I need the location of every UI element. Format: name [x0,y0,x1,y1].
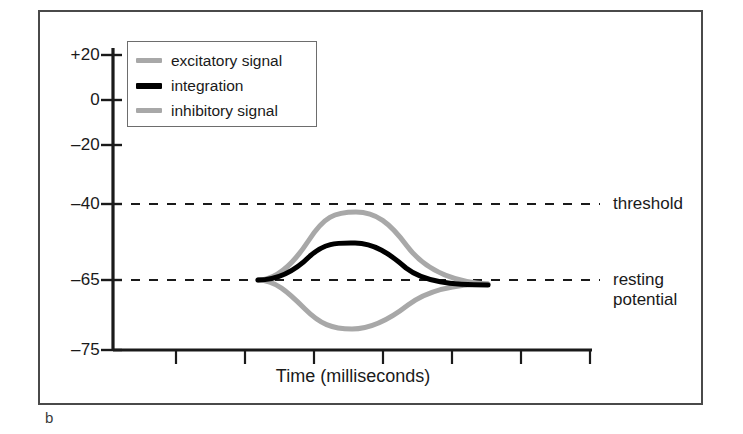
x-axis-title: Time (milliseconds) [113,366,593,387]
legend-label-inhibitory-signal: inhibitory signal [171,103,278,119]
y-tick-label-minus40: –40 [38,195,100,212]
legend-item-excitatory-signal: excitatory signal [136,48,308,73]
legend-swatch-inhibitory-signal [136,108,162,113]
legend-label-excitatory-signal: excitatory signal [171,53,282,69]
resting-potential-annotation: resting potential [613,270,677,310]
y-tick-label-0: 0 [38,91,100,108]
figure-panel: +20 0 –20 –40 –65 –75 excitatory signal … [0,0,743,434]
curve-inhibitory-signal [258,280,488,329]
y-tick-label-minus75: –75 [38,341,100,358]
legend-swatch-integration [136,83,162,89]
y-tick-label-minus20: –20 [38,136,100,153]
legend-item-integration: integration [136,73,308,98]
legend-item-inhibitory-signal: inhibitory signal [136,98,308,123]
panel-label: b [45,409,53,426]
x-tick-marks [176,350,590,364]
y-tick-label-minus65: –65 [38,271,100,288]
resting-potential-line2: potential [613,290,677,310]
legend-swatch-excitatory-signal [136,58,162,63]
threshold-annotation: threshold [613,194,683,214]
legend-label-integration: integration [171,78,243,94]
chart-legend: excitatory signal integration inhibitory… [127,41,317,127]
resting-potential-line1: resting [613,270,677,290]
y-tick-label-20: +20 [38,46,100,63]
